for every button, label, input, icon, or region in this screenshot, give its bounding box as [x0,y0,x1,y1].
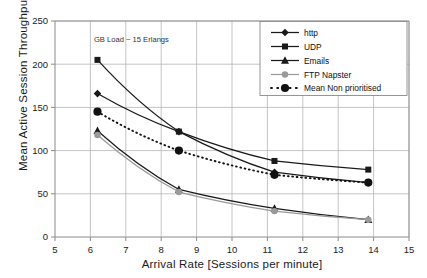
x-tick-label: 12 [298,244,309,255]
y-tick-label: 50 [37,188,48,199]
x-tick-label: 8 [159,244,164,255]
data-point-marker [176,129,182,135]
data-point-marker [271,158,277,164]
x-tick-label: 13 [333,244,344,255]
data-point-marker [94,132,100,138]
legend-marker-sample [282,71,288,77]
data-point-marker [175,147,183,155]
data-point-marker [365,217,371,223]
series-line [97,135,368,220]
x-tick-label: 10 [227,244,238,255]
y-tick-label: 150 [32,102,48,113]
data-point-marker [94,57,100,63]
y-tick-label: 100 [32,145,48,156]
chart-figure: Mean Active Session Throughput [kbps] Ar… [0,0,427,278]
x-tick-label: 14 [368,244,379,255]
data-point-marker [176,189,182,195]
y-tick-label: 200 [32,59,48,70]
plot-canvas: 05010015020025056789101112131415GB Load … [0,0,427,278]
data-point-marker [365,167,371,173]
data-point-marker [270,171,278,179]
data-point-marker [94,90,102,98]
chart-annotation: GB Load ~ 15 Erlangs [94,35,169,44]
series-line [97,94,368,183]
x-tick-label: 15 [404,244,415,255]
legend-label: UDP [304,42,322,52]
x-tick-label: 6 [88,244,93,255]
legend-label: Emails [304,56,329,66]
x-tick-label: 5 [52,244,57,255]
y-tick-label: 0 [43,231,48,242]
series-line [97,131,368,220]
x-tick-label: 11 [262,244,272,255]
y-tick-label: 250 [32,15,48,26]
x-tick-label: 7 [123,244,128,255]
legend-label: Mean Non prioritised [304,83,382,93]
x-tick-label: 9 [194,244,199,255]
data-point-marker [93,108,101,116]
legend-marker-sample [282,44,288,50]
legend-label: FTP Napster [304,70,352,80]
series-line [97,112,368,183]
data-point-marker [271,208,277,214]
legend-marker-sample [281,84,289,92]
data-point-marker [364,178,372,186]
legend-label: http [304,28,318,38]
